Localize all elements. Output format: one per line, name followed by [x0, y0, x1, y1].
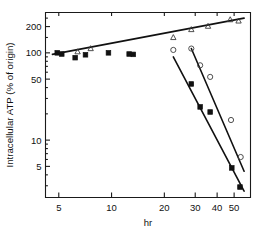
data-point-square-filled — [55, 51, 60, 56]
data-point-square-filled — [189, 82, 194, 87]
chart-figure: 51050100200 51020304050 hr Intracellular… — [0, 0, 267, 236]
data-point-square-filled — [229, 166, 234, 171]
data-point-square-filled — [131, 52, 136, 57]
y-tick-label: 5 — [36, 161, 41, 172]
y-tick-label: 50 — [31, 74, 42, 85]
x-axis-title: hr — [144, 217, 152, 228]
y-tick-label: 200 — [26, 21, 42, 32]
x-tick-label: 30 — [190, 202, 201, 213]
data-point-square-filled — [83, 52, 88, 57]
y-tick-label: 100 — [26, 47, 42, 58]
semilog-scatter-plot: 51050100200 51020304050 hr Intracellular… — [0, 0, 267, 236]
y-axis-title: Intracellular ATP (% of origin) — [4, 42, 15, 167]
x-tick-label: 20 — [159, 202, 170, 213]
data-point-square-filled — [106, 51, 111, 56]
x-tick-label: 40 — [212, 202, 223, 213]
data-point-square-filled — [208, 110, 213, 115]
x-tick-label: 5 — [56, 202, 61, 213]
data-point-square-filled — [238, 185, 243, 190]
data-point-square-filled — [59, 52, 64, 57]
x-tick-label: 50 — [229, 202, 240, 213]
y-tick-label: 10 — [31, 135, 42, 146]
chart-background — [0, 0, 267, 236]
x-tick-label: 10 — [106, 202, 117, 213]
data-point-square-filled — [198, 105, 203, 110]
data-point-square-filled — [73, 55, 78, 60]
